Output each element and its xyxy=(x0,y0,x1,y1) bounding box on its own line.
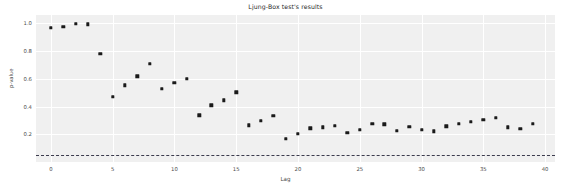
gridline-vertical xyxy=(51,15,52,162)
scatter-point xyxy=(61,25,64,28)
scatter-point xyxy=(432,130,435,133)
gridline-vertical xyxy=(236,15,237,162)
y-axis-tick-label: 0.6 xyxy=(6,76,32,82)
x-axis-tick-label: 30 xyxy=(418,166,425,172)
x-axis-tick-label: 20 xyxy=(295,166,302,172)
scatter-point xyxy=(86,22,89,25)
scatter-point xyxy=(160,87,163,90)
scatter-point xyxy=(309,127,312,130)
significance-threshold-line xyxy=(36,155,555,156)
scatter-point xyxy=(333,124,336,127)
x-axis-tick-label: 15 xyxy=(233,166,240,172)
scatter-point xyxy=(296,132,299,135)
scatter-point xyxy=(531,122,534,125)
scatter-point xyxy=(49,26,52,29)
scatter-point xyxy=(284,137,287,140)
x-axis-tick-label: 25 xyxy=(356,166,363,172)
gridline-vertical xyxy=(545,15,546,162)
plot-area xyxy=(36,15,555,162)
scatter-point xyxy=(197,114,200,117)
scatter-point xyxy=(99,52,102,55)
scatter-point xyxy=(457,122,460,125)
scatter-point xyxy=(234,91,237,94)
scatter-point xyxy=(111,95,114,98)
gridline-horizontal xyxy=(36,51,555,52)
y-axis-tick-label: 0.4 xyxy=(6,104,32,110)
scatter-point xyxy=(519,127,522,130)
gridline-horizontal xyxy=(36,23,555,24)
scatter-point xyxy=(247,123,250,126)
gridline-vertical xyxy=(360,15,361,162)
gridline-vertical xyxy=(483,15,484,162)
gridline-vertical xyxy=(298,15,299,162)
scatter-point xyxy=(321,125,324,128)
gridline-vertical xyxy=(174,15,175,162)
scatter-point xyxy=(74,22,77,25)
scatter-point xyxy=(136,74,139,77)
x-axis-tick-label: 10 xyxy=(171,166,178,172)
x-axis-tick-label: 40 xyxy=(542,166,549,172)
scatter-point xyxy=(445,125,448,128)
scatter-point xyxy=(346,131,349,134)
scatter-point xyxy=(482,118,485,121)
x-axis-tick-label: 5 xyxy=(111,166,114,172)
scatter-point xyxy=(222,99,225,102)
gridline-vertical xyxy=(113,15,114,162)
gridline-horizontal xyxy=(36,107,555,108)
scatter-point xyxy=(173,81,176,84)
scatter-point xyxy=(148,62,151,65)
scatter-point xyxy=(469,120,472,123)
ljung-box-chart-figure: Ljung-Box test's results p-value 0.20.40… xyxy=(0,0,571,193)
gridline-horizontal xyxy=(36,79,555,80)
scatter-point xyxy=(210,104,213,107)
scatter-point xyxy=(420,128,423,131)
y-axis-tick-label: 0.2 xyxy=(6,131,32,137)
scatter-point xyxy=(358,128,361,131)
scatter-point xyxy=(383,123,386,126)
y-axis-tick-label: 0.8 xyxy=(6,48,32,54)
gridline-vertical xyxy=(422,15,423,162)
scatter-point xyxy=(259,119,262,122)
scatter-point xyxy=(123,84,126,87)
x-axis-tick-label: 0 xyxy=(49,166,52,172)
scatter-point xyxy=(407,125,410,128)
scatter-point xyxy=(506,125,509,128)
y-axis-tick-label: 1.0 xyxy=(6,20,32,26)
scatter-point xyxy=(395,129,398,132)
scatter-point xyxy=(185,77,188,80)
x-axis-label: Lag xyxy=(0,176,571,182)
x-axis-tick-label: 35 xyxy=(480,166,487,172)
chart-title: Ljung-Box test's results xyxy=(0,3,571,10)
scatter-point xyxy=(370,122,373,125)
scatter-point xyxy=(494,116,497,119)
scatter-point xyxy=(272,114,275,117)
